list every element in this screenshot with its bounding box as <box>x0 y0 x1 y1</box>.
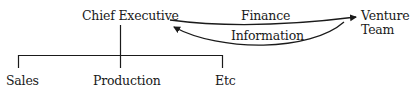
venture-team-node-line1: Venture <box>361 9 409 22</box>
finance-edge-label: Finance <box>241 9 290 22</box>
information-edge-label: Information <box>231 29 304 42</box>
chief-executive-node: Chief Executive <box>82 9 179 22</box>
production-node: Production <box>93 74 161 87</box>
diagram-lines <box>0 0 410 92</box>
sales-node: Sales <box>6 74 39 87</box>
etc-node: Etc <box>215 74 236 87</box>
venture-team-node-line2: Team <box>361 23 394 36</box>
